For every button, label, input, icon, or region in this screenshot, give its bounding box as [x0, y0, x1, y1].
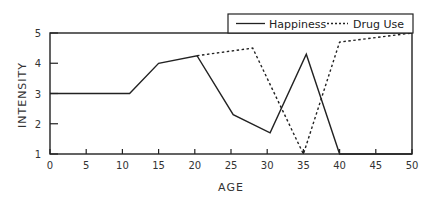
y-tick-label: 5: [35, 28, 41, 39]
x-tick-label: 5: [83, 160, 89, 171]
x-tick-label: 50: [406, 160, 419, 171]
series-happiness: [50, 54, 412, 154]
y-tick-label: 2: [35, 119, 41, 130]
x-tick-label: 45: [369, 160, 382, 171]
series-drug-use: [197, 33, 412, 154]
x-axis-ticks: 05101520253035404550: [47, 149, 419, 171]
x-tick-label: 35: [297, 160, 310, 171]
y-tick-label: 3: [35, 89, 41, 100]
y-tick-label: 4: [35, 58, 41, 69]
legend-label-happiness: Happiness: [269, 18, 327, 31]
y-axis-label: INTENSITY: [16, 62, 29, 128]
x-tick-label: 15: [152, 160, 165, 171]
x-tick-label: 0: [47, 160, 53, 171]
y-tick-label: 1: [35, 149, 41, 160]
data-series: [50, 33, 412, 154]
x-tick-label: 40: [333, 160, 346, 171]
x-axis-label: AGE: [218, 181, 244, 194]
x-tick-label: 30: [261, 160, 274, 171]
legend: Happiness Drug Use: [228, 14, 413, 33]
x-tick-label: 25: [225, 160, 238, 171]
legend-label-drug-use: Drug Use: [353, 18, 404, 31]
x-tick-label: 20: [188, 160, 201, 171]
x-tick-label: 10: [116, 160, 129, 171]
line-chart: 12345 05101520253035404550 Happiness Dru…: [0, 0, 435, 202]
